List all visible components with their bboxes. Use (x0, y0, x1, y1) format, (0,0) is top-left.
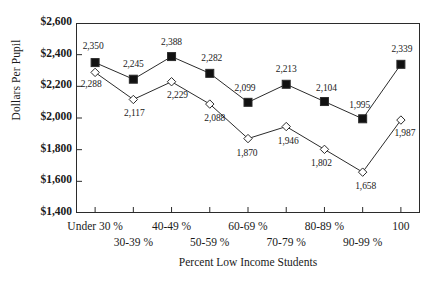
x-tick-label: 40-49 % (152, 220, 191, 232)
y-tick-label: $2,400 (16, 47, 72, 59)
data-point-value-label: 2,339 (391, 44, 412, 54)
data-point-value-label: 2,104 (316, 83, 337, 93)
data-point-diamond (167, 78, 175, 86)
x-tick-label: 100 (392, 220, 409, 232)
data-point-diamond (129, 95, 137, 103)
data-point-square (168, 53, 176, 61)
data-point-square (129, 75, 137, 83)
data-point-value-label: 1,658 (355, 181, 376, 191)
data-point-value-label: 1,946 (278, 136, 299, 146)
data-point-value-label: 1,802 (311, 158, 332, 168)
x-tick-label: 30-39 % (114, 236, 153, 248)
data-point-diamond (320, 145, 328, 153)
chart-container: Dollars Per Pupil $2,600$2,400$2,200$2,0… (0, 0, 444, 295)
x-tick-label: Under 30 % (67, 220, 123, 232)
y-tick-label: $2,200 (16, 78, 72, 90)
data-point-diamond (91, 68, 99, 76)
y-tick-label: $2,000 (16, 110, 72, 122)
x-axis-title: Percent Low Income Students (76, 256, 420, 268)
y-tick-label: $1,600 (16, 173, 72, 185)
data-point-value-label: 2,099 (235, 83, 256, 93)
y-tick-label: $1,400 (16, 205, 72, 217)
x-tick-label: 70-79 % (267, 236, 306, 248)
data-point-diamond (282, 122, 290, 130)
data-point-square (320, 98, 328, 106)
y-axis-tick-labels: $2,600$2,400$2,200$2,000$1,800$1,600$1,4… (14, 0, 72, 295)
data-point-square (282, 80, 290, 88)
y-tick-label: $2,600 (16, 15, 72, 27)
data-point-square (244, 98, 252, 106)
data-point-value-label: 2,288 (81, 79, 102, 89)
x-tick-label: 60-69 % (228, 220, 267, 232)
data-point-value-label: 1,987 (394, 128, 415, 138)
data-point-value-label: 2,282 (201, 53, 222, 63)
data-point-square (91, 59, 99, 67)
data-point-value-label: 1,870 (237, 148, 258, 158)
data-point-value-label: 2,388 (161, 37, 182, 47)
data-point-value-label: 1,995 (349, 100, 370, 110)
data-point-value-label: 2,213 (276, 64, 297, 74)
data-point-diamond (397, 116, 405, 124)
x-tick-label: 50-59 % (190, 236, 229, 248)
data-point-value-label: 2,350 (83, 41, 104, 51)
x-tick-label: 90-99 % (343, 236, 382, 248)
data-point-value-label: 2,229 (167, 90, 188, 100)
data-point-value-label: 2,117 (124, 108, 145, 118)
data-point-square (206, 69, 214, 77)
data-point-value-label: 2,245 (123, 59, 144, 69)
y-tick-label: $1,800 (16, 142, 72, 154)
data-point-diamond (358, 168, 366, 176)
data-point-square (397, 60, 405, 68)
x-tick-label: 80-89 % (305, 220, 344, 232)
data-point-square (359, 115, 367, 123)
data-point-value-label: 2,088 (204, 113, 225, 123)
